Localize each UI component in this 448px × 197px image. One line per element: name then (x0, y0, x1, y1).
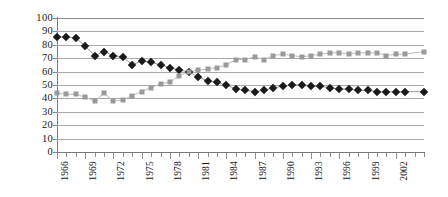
data-point-black-diamond-series-1994 (316, 82, 324, 90)
gridline-30 (57, 112, 424, 113)
x-tick-label-2002: 2002 (400, 161, 409, 181)
data-point-gray-square-series-2005 (422, 49, 427, 54)
data-point-gray-square-series-1971 (102, 91, 107, 96)
y-tick-label-0: 0 (5, 147, 53, 157)
x-tick-mark-1975 (142, 153, 143, 159)
data-point-black-diamond-series-2001 (382, 87, 390, 95)
data-point-black-diamond-series-1996 (335, 85, 343, 93)
y-axis-labels: 0102030405060708090100 (0, 0, 53, 197)
data-point-black-diamond-series-1967 (62, 33, 70, 41)
x-tick-mark-1971 (104, 153, 105, 157)
x-tick-mark-1967 (66, 153, 67, 157)
x-tick-label-1981: 1981 (202, 161, 211, 181)
data-point-black-diamond-series-1998 (354, 86, 362, 94)
data-point-black-diamond-series-1987 (250, 87, 258, 95)
data-point-black-diamond-series-1979 (175, 66, 183, 74)
gridline-40 (57, 98, 424, 99)
data-point-black-diamond-series-1969 (81, 42, 89, 50)
data-point-gray-square-series-1984 (224, 62, 229, 67)
x-tick-mark-1987 (255, 153, 256, 159)
x-tick-mark-1972 (113, 153, 114, 159)
data-point-black-diamond-series-1973 (119, 53, 127, 61)
data-point-gray-square-series-1998 (356, 50, 361, 55)
x-tick-mark-2005 (424, 153, 425, 157)
x-tick-label-1984: 1984 (230, 161, 239, 181)
y-tick-label-30: 30 (5, 107, 53, 117)
x-tick-label-1990: 1990 (287, 161, 296, 181)
data-point-black-diamond-series-1976 (147, 58, 155, 66)
data-point-black-diamond-series-2005 (420, 87, 428, 95)
y-tick-mark-90 (53, 31, 57, 32)
gridline-60 (57, 72, 424, 73)
x-tick-mark-1968 (76, 153, 77, 157)
data-point-gray-square-series-1979 (177, 73, 182, 78)
x-tick-mark-1969 (85, 153, 86, 159)
x-tick-mark-1979 (179, 153, 180, 157)
x-tick-mark-1996 (339, 153, 340, 159)
x-tick-mark-1997 (349, 153, 350, 157)
x-tick-mark-1988 (264, 153, 265, 157)
y-tick-mark-50 (53, 85, 57, 86)
x-tick-mark-1994 (320, 153, 321, 157)
data-point-black-diamond-series-2003 (401, 87, 409, 95)
y-tick-mark-40 (53, 98, 57, 99)
x-tick-mark-1998 (358, 153, 359, 157)
data-point-gray-square-series-1995 (327, 50, 332, 55)
data-point-black-diamond-series-1985 (232, 85, 240, 93)
y-tick-label-100: 100 (5, 13, 53, 23)
y-tick-label-60: 60 (5, 67, 53, 77)
gridline-10 (57, 139, 424, 140)
y-tick-mark-80 (53, 45, 57, 46)
x-tick-mark-1993 (311, 153, 312, 159)
data-point-black-diamond-series-1966 (53, 33, 61, 41)
x-tick-mark-1986 (245, 153, 246, 157)
y-tick-mark-100 (53, 18, 57, 19)
x-tick-mark-1985 (236, 153, 237, 157)
x-tick-mark-1995 (330, 153, 331, 157)
data-point-gray-square-series-1994 (318, 52, 323, 57)
x-tick-mark-1966 (57, 153, 58, 159)
x-tick-mark-2002 (396, 153, 397, 159)
data-point-black-diamond-series-1990 (279, 82, 287, 90)
x-tick-mark-1981 (198, 153, 199, 159)
x-tick-mark-1976 (151, 153, 152, 157)
gridline-20 (57, 125, 424, 126)
x-tick-mark-1974 (132, 153, 133, 157)
x-tick-mark-2000 (377, 153, 378, 157)
x-tick-mark-1991 (292, 153, 293, 157)
x-tick-mark-1973 (123, 153, 124, 157)
x-tick-mark-2003 (405, 153, 406, 157)
x-tick-label-1999: 1999 (372, 161, 381, 181)
data-point-black-diamond-series-2002 (392, 87, 400, 95)
gridline-50 (57, 85, 424, 86)
y-tick-label-50: 50 (5, 80, 53, 90)
data-point-gray-square-series-1990 (280, 52, 285, 57)
x-tick-label-1966: 1966 (61, 161, 70, 181)
x-tick-label-1993: 1993 (315, 161, 324, 181)
data-point-gray-square-series-2002 (393, 52, 398, 57)
x-tick-label-1972: 1972 (117, 161, 126, 181)
y-tick-mark-60 (53, 72, 57, 73)
y-tick-label-10: 10 (5, 134, 53, 144)
data-point-gray-square-series-1999 (365, 50, 370, 55)
x-tick-mark-1977 (161, 153, 162, 157)
x-tick-mark-1990 (283, 153, 284, 159)
data-point-black-diamond-series-1981 (194, 73, 202, 81)
x-tick-label-1996: 1996 (343, 161, 352, 181)
y-tick-label-70: 70 (5, 53, 53, 63)
data-point-gray-square-series-1968 (73, 92, 78, 97)
data-point-gray-square-series-1967 (64, 92, 69, 97)
x-tick-label-1987: 1987 (259, 161, 268, 181)
data-point-black-diamond-series-1988 (260, 86, 268, 94)
data-point-black-diamond-series-1977 (156, 61, 164, 69)
gridline-90 (57, 31, 424, 32)
data-point-gray-square-series-2003 (403, 52, 408, 57)
x-tick-mark-1982 (208, 153, 209, 157)
data-point-gray-square-series-1975 (139, 89, 144, 94)
x-tick-mark-1970 (95, 153, 96, 157)
data-point-black-diamond-series-1978 (166, 63, 174, 71)
y-tick-mark-10 (53, 139, 57, 140)
gridline-100 (57, 18, 424, 19)
data-point-black-diamond-series-1982 (203, 77, 211, 85)
data-point-gray-square-series-1997 (346, 52, 351, 57)
